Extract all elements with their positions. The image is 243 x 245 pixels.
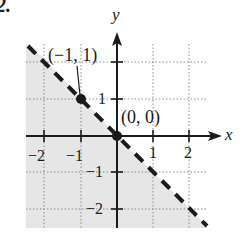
y-tick-label: −2 bbox=[86, 201, 103, 217]
x-tick-label: −2 bbox=[28, 148, 45, 164]
point-neg1-1 bbox=[76, 94, 86, 104]
point-origin bbox=[112, 131, 122, 141]
x-tick-label: −1 bbox=[66, 148, 83, 164]
x-tick-label: 2 bbox=[184, 145, 192, 161]
y-tick-label: 1 bbox=[98, 91, 106, 107]
y-axis-label: y bbox=[112, 6, 120, 23]
point-label-origin: (0, 0) bbox=[121, 108, 160, 126]
point-label-neg1-1: (−1, 1) bbox=[48, 46, 97, 64]
leader-line bbox=[77, 66, 80, 95]
x-tick-label: 1 bbox=[149, 145, 157, 161]
x-axis-label: x bbox=[225, 126, 233, 143]
y-tick-label: −1 bbox=[86, 164, 103, 180]
